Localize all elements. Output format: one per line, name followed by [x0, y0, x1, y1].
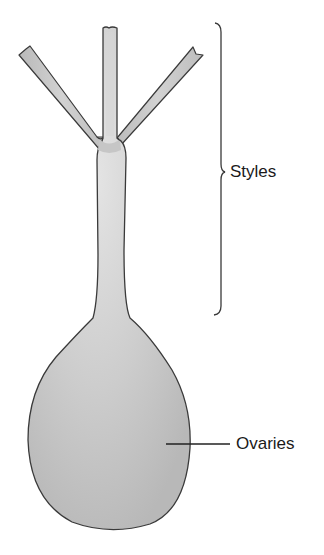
styles-label: Styles — [230, 163, 276, 180]
style-branch-left — [19, 46, 106, 150]
style-branch-right — [112, 47, 203, 150]
ovaries-label: Ovaries — [236, 435, 295, 452]
styles-bracket — [214, 23, 225, 315]
pistil-body — [28, 27, 190, 530]
pistil-diagram — [0, 0, 324, 555]
